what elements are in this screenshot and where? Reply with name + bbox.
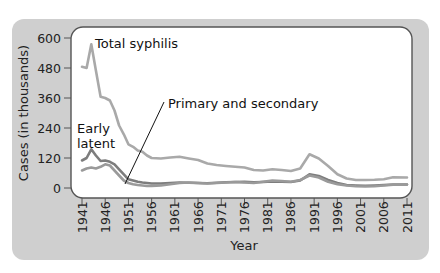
annotation-early-latent-line1: Early: [77, 121, 110, 136]
annotation-early-latent-line2: latent: [77, 136, 115, 151]
x-tick-label: 1991: [307, 201, 322, 233]
x-tick-label: 1966: [191, 201, 206, 233]
annotation-primary-secondary: Primary and secondary: [168, 96, 319, 111]
x-tick-label: 1981: [260, 201, 275, 233]
x-tick-label: 1976: [237, 201, 252, 233]
y-axis: 0120240360480600: [37, 31, 71, 196]
y-tick-label: 120: [37, 151, 61, 166]
y-axis-title: Cases (in thousands): [16, 45, 31, 181]
x-tick-label: 1956: [144, 201, 159, 233]
y-tick-label: 600: [37, 31, 61, 46]
x-tick-label: 1971: [214, 201, 229, 233]
x-tick-label: 2001: [353, 201, 368, 233]
x-tick-label: 1941: [75, 201, 90, 233]
x-tick-label: 1986: [283, 201, 298, 233]
y-tick-label: 360: [37, 91, 61, 106]
y-tick-label: 240: [37, 121, 61, 136]
x-tick-label: 2006: [376, 201, 391, 233]
x-tick-label: 1996: [330, 201, 345, 233]
x-tick-label: 1951: [121, 201, 136, 233]
y-tick-label: 480: [37, 61, 61, 76]
line-chart: 0120240360480600 19411946195119561961196…: [0, 0, 440, 273]
x-axis-title: Year: [229, 238, 258, 253]
x-axis: 1941194619511956196119661971197619811986…: [75, 198, 415, 233]
annotation-total-syphilis: Total syphilis: [94, 36, 178, 51]
x-tick-label: 1961: [167, 201, 182, 233]
x-tick-label: 2011: [400, 201, 415, 233]
y-tick-label: 0: [53, 181, 61, 196]
x-tick-label: 1946: [98, 201, 113, 233]
